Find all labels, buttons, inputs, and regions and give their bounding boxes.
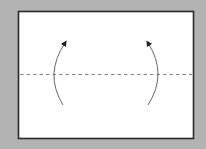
paper-sheet — [19, 12, 194, 139]
fold-diagram — [0, 0, 206, 149]
diagram-stage — [0, 0, 206, 149]
